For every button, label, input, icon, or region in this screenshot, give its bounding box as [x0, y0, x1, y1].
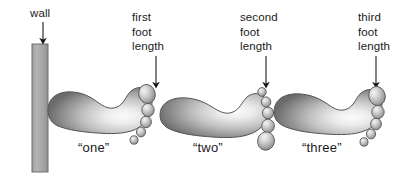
toe-2: [372, 105, 384, 118]
footprint-three: [274, 85, 387, 146]
callout-first-line-3: length: [132, 39, 164, 54]
callout-third-line-1: third: [358, 10, 390, 25]
toe-5: [360, 138, 368, 146]
callout-first: first foot length: [132, 10, 164, 54]
footprint-caption-one: “one”: [78, 140, 109, 155]
toe-3: [371, 118, 382, 130]
callout-second-line-2: foot: [240, 25, 278, 40]
toe-5: [130, 136, 138, 144]
wall-label: wall: [30, 6, 50, 21]
toe-3: [262, 107, 273, 119]
callout-second-line-1: second: [240, 10, 278, 25]
toe-2: [142, 103, 154, 116]
callout-second: second foot length: [240, 10, 278, 54]
toe-2: [262, 119, 275, 133]
callout-first-line-1: first: [132, 10, 164, 25]
footprint-one: [48, 83, 157, 144]
callout-second-line-3: length: [240, 39, 278, 54]
toe-4: [261, 97, 271, 107]
callout-third-line-3: length: [358, 39, 390, 54]
toe-5: [258, 88, 266, 97]
toe-3: [141, 116, 152, 128]
callout-third: third foot length: [358, 10, 390, 54]
toe-4: [366, 129, 375, 139]
figure-canvas: wall first foot length second foot lengt…: [0, 0, 418, 179]
toe-1: [256, 130, 276, 151]
toe-4: [136, 127, 145, 137]
footprint-caption-three: “three”: [302, 140, 342, 155]
wall-shape: [32, 44, 48, 172]
callout-third-line-2: foot: [358, 25, 390, 40]
callout-first-line-2: foot: [132, 25, 164, 40]
footprint-caption-two: “two”: [193, 140, 223, 155]
